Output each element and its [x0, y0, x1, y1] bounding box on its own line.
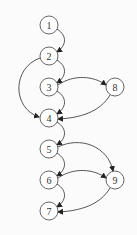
node-4: 4 [40, 109, 58, 127]
edge-2-4 [19, 58, 40, 117]
svg-text:8: 8 [113, 82, 118, 93]
svg-text:9: 9 [113, 175, 118, 186]
svg-text:7: 7 [47, 206, 52, 217]
edge-8-4 [58, 95, 110, 119]
edge-1-2 [57, 29, 65, 52]
node-5: 5 [40, 140, 58, 158]
svg-text:4: 4 [47, 113, 52, 124]
edge-9-7 [58, 188, 110, 212]
svg-text:1: 1 [47, 20, 52, 31]
svg-text:5: 5 [47, 144, 52, 155]
node-8: 8 [106, 78, 124, 96]
edge-2-3 [57, 60, 65, 83]
edge-6-7 [57, 184, 65, 207]
edge-3-8 [58, 77, 106, 85]
svg-text:3: 3 [47, 82, 52, 93]
flow-graph: 1 2 3 8 4 5 6 9 7 [0, 0, 137, 235]
edge-3-4 [57, 91, 65, 114]
node-3: 3 [40, 78, 58, 96]
edge-4-5 [57, 122, 65, 145]
node-6: 6 [40, 171, 58, 189]
node-2: 2 [40, 47, 58, 65]
edge-6-9 [58, 170, 106, 178]
node-1: 1 [40, 16, 58, 34]
node-7: 7 [40, 202, 58, 220]
edge-5-9 [58, 143, 113, 171]
svg-text:6: 6 [47, 175, 52, 186]
edge-5-6 [57, 153, 65, 176]
svg-text:2: 2 [47, 51, 52, 62]
node-9: 9 [106, 171, 124, 189]
